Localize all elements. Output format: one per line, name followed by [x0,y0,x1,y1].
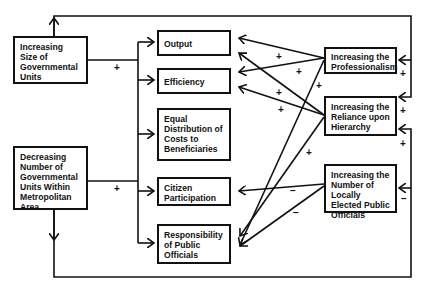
sign-elected-to-citizen: − [290,186,296,196]
box-increasing-size-label: Increasing Size of Governmental Units [20,42,78,82]
sign-number-to-outcomes: + [114,184,120,194]
sign-prof-to-efficiency: + [296,67,302,77]
sign-loop-to-hier-top: + [400,106,406,116]
box-hierarchy-label: Increasing the Reliance upon Hierarchy [331,102,390,132]
box-decreasing-number-label: Decreasing Number of Governmental Units … [20,152,78,212]
sign-hier-to-output: + [276,88,282,98]
box-responsibility-label: Responsibility of Public Officials [164,230,223,260]
box-responsibility: Responsibility of Public Officials [157,224,231,264]
box-locally-elected-label: Increasing the Number of Locally Elected… [331,170,390,220]
sign-hier-to-responsibility: + [306,148,312,158]
box-increasing-size: Increasing Size of Governmental Units [13,36,88,84]
sign-loop-to-prof: + [400,69,406,79]
box-professionalism-label: Increasing the Professionalism [331,52,397,72]
box-output: Output [157,30,231,56]
box-efficiency: Efficiency [157,68,231,94]
sign-prof-to-output: + [276,52,282,62]
sign-hier-to-efficiency: + [278,105,284,115]
sign-elected-to-responsibility: − [293,208,299,218]
box-equal-distribution-label: Equal Distribution of Costs to Beneficia… [164,114,223,154]
sign-loop-to-hier-bottom: + [400,139,406,149]
box-efficiency-label: Efficiency [164,77,205,87]
box-locally-elected: Increasing the Number of Locally Elected… [324,164,397,213]
sign-prof-to-responsibility: + [316,81,322,91]
box-professionalism: Increasing the Professionalism [324,47,397,74]
box-output-label: Output [164,39,192,49]
sign-size-to-outcomes: + [114,63,120,73]
box-citizen-participation: Citizen Participation [157,177,231,206]
sign-loop-to-elected: − [401,194,407,204]
box-hierarchy: Increasing the Reliance upon Hierarchy [324,96,397,136]
box-decreasing-number: Decreasing Number of Governmental Units … [13,146,88,210]
box-equal-distribution: Equal Distribution of Costs to Beneficia… [157,108,231,161]
box-citizen-participation-label: Citizen Participation [164,183,216,203]
